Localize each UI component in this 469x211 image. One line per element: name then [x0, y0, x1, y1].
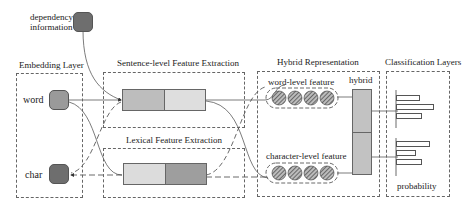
- probability-bar: [396, 159, 422, 165]
- hybrid-representation-title: Hybrid Representation: [277, 57, 359, 67]
- probability-label: probability: [397, 181, 437, 191]
- classification-title: Classification Layers: [385, 57, 461, 67]
- embedding-layer-title: Embedding Layer: [19, 60, 84, 70]
- sentence-feature-block: [122, 89, 206, 111]
- word-embedding-node: [49, 90, 69, 110]
- hybrid-vector-top: [353, 90, 371, 133]
- sentence-level-title: Sentence-level Feature Extraction: [117, 58, 239, 68]
- sentence-block-left: [123, 90, 165, 110]
- char-label: char: [25, 170, 42, 180]
- char-embedding-node: [49, 164, 69, 184]
- dependency-node: [73, 12, 93, 32]
- dependency-label-line1: dependency: [30, 12, 73, 22]
- probability-bar: [396, 95, 420, 101]
- word-level-feature-label: word-level feature: [268, 77, 334, 87]
- word-label: word: [23, 95, 44, 105]
- hybrid-label: hybrid: [349, 75, 373, 85]
- lexical-title: Lexical Feature Extraction: [126, 135, 222, 145]
- probability-bar: [396, 150, 416, 156]
- probability-bar: [396, 104, 434, 110]
- classification-panel: [386, 71, 450, 197]
- sentence-block-right: [165, 90, 206, 110]
- hybrid-vector: [352, 89, 372, 175]
- probability-bar: [396, 113, 422, 119]
- lexical-feature-block: [123, 163, 207, 185]
- lexical-block-right: [166, 164, 207, 184]
- char-level-feature-label: character-level feature: [266, 151, 347, 161]
- probability-bar: [396, 141, 430, 147]
- lexical-block-left: [124, 164, 166, 184]
- hybrid-vector-bottom: [353, 133, 371, 175]
- dependency-label-line2: information: [30, 22, 73, 32]
